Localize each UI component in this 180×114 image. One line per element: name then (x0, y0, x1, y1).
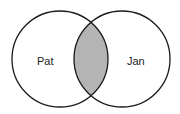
set-label-pat: Pat (37, 55, 54, 67)
set-label-jan: Jan (127, 55, 145, 67)
venn-diagram: Pat Jan (0, 0, 180, 114)
